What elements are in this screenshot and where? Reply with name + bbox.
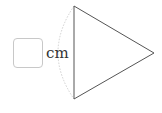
answer-input[interactable] <box>13 38 43 68</box>
triangle <box>74 6 154 99</box>
unit-label: cm <box>46 44 69 62</box>
